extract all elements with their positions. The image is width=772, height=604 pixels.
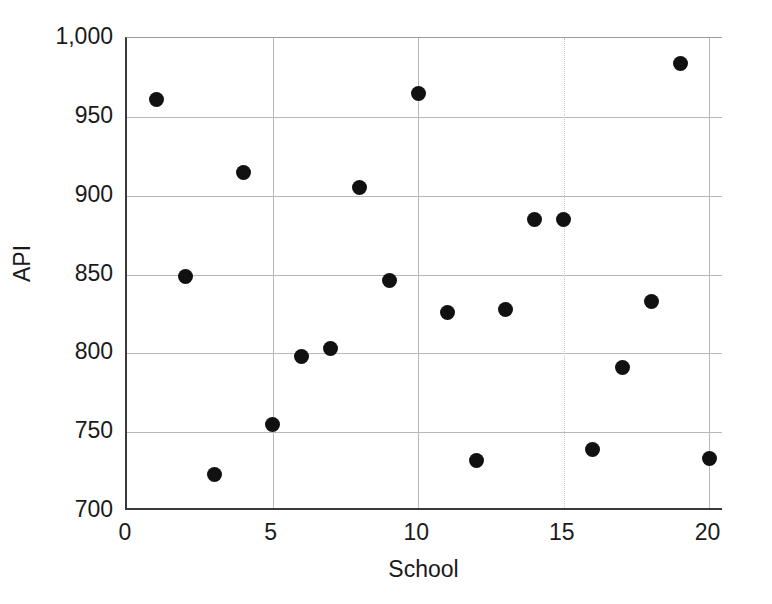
y-tick-label: 950: [3, 104, 113, 127]
data-point: [294, 349, 309, 364]
data-point: [352, 180, 367, 195]
y-tick-label: 900: [3, 183, 113, 206]
gridline-vertical: [709, 38, 710, 508]
gridline-horizontal: [127, 117, 722, 118]
y-tick-label: 850: [3, 262, 113, 285]
data-point: [498, 302, 513, 317]
x-tick-label: 5: [231, 519, 311, 545]
data-point: [644, 294, 659, 309]
scatter-plot-figure: API 7007508008509009501,000 05101520 Sch…: [0, 0, 772, 604]
data-point: [702, 451, 717, 466]
x-axis-title: School: [125, 556, 722, 583]
gridline-horizontal: [127, 353, 722, 354]
x-tick-label: 20: [667, 519, 747, 545]
y-tick-label: 750: [3, 419, 113, 442]
x-tick-label: 10: [376, 519, 456, 545]
y-axis-tick-labels: 7007508008509009501,000: [0, 0, 113, 604]
data-point: [382, 273, 397, 288]
data-point: [178, 269, 193, 284]
data-point: [149, 92, 164, 107]
data-point: [556, 212, 571, 227]
data-point: [440, 305, 455, 320]
data-point: [585, 442, 600, 457]
y-tick-label: 700: [3, 498, 113, 521]
data-point: [207, 467, 222, 482]
gridline-horizontal: [127, 432, 722, 433]
data-point: [411, 86, 426, 101]
plot-area: [125, 37, 722, 510]
gridline-vertical: [418, 38, 419, 508]
data-point: [673, 56, 688, 71]
x-tick-label: 15: [522, 519, 602, 545]
y-tick-label: 1,000: [3, 25, 113, 48]
gridline-vertical: [273, 38, 274, 508]
gridline-horizontal: [127, 275, 722, 276]
gridline-horizontal: [127, 196, 722, 197]
data-point: [615, 360, 630, 375]
data-point: [469, 453, 484, 468]
x-tick-label: 0: [85, 519, 165, 545]
gridline-vertical: [564, 38, 565, 508]
y-tick-label: 800: [3, 340, 113, 363]
data-point: [265, 417, 280, 432]
data-point: [236, 165, 251, 180]
data-point: [527, 212, 542, 227]
